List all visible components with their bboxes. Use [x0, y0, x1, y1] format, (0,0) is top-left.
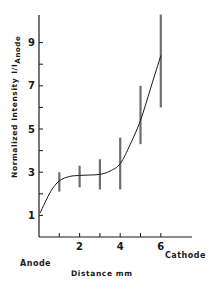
y-axis-ticks: 13579 — [28, 37, 43, 221]
x-tick-label: 4 — [117, 241, 124, 252]
x-axis-title: Distance mm — [71, 269, 133, 278]
x-tick-label: 2 — [76, 241, 83, 252]
cathode-label: Cathode — [165, 251, 206, 260]
y-axis-title: Normalized IntensityI/IAnode — [10, 36, 22, 178]
y-tick-label: 7 — [28, 80, 35, 91]
y-tick-label: 3 — [28, 167, 35, 178]
y-tick-label: 1 — [28, 210, 35, 221]
x-tick-label: 6 — [157, 241, 164, 252]
x-axis-ticks: 246 — [59, 233, 164, 252]
intensity-vs-distance-chart: 13579 246 Normalized IntensityI/IAnode D… — [0, 0, 213, 290]
y-tick-label: 9 — [28, 37, 35, 48]
y-tick-label: 5 — [28, 124, 35, 135]
fitted-curve — [40, 56, 161, 214]
anode-label: Anode — [20, 259, 51, 268]
